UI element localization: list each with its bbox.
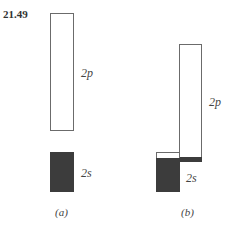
caption-a: (a) [55,206,68,218]
level-2s-box-a [50,152,74,192]
level-2p-label-b: 2p [209,95,221,110]
caption-b: (b) [181,206,194,218]
level-2s-label-b: 2s [186,171,197,186]
level-2p-box-b [179,44,202,162]
level-2p-label-a: 2p [81,66,93,81]
level-2p-box-a [50,13,74,131]
problem-number: 21.49 [3,8,28,20]
level-2s-fill-b [156,158,180,192]
level-2s-label-a: 2s [81,166,92,181]
level-2p-fill-b [179,157,202,162]
